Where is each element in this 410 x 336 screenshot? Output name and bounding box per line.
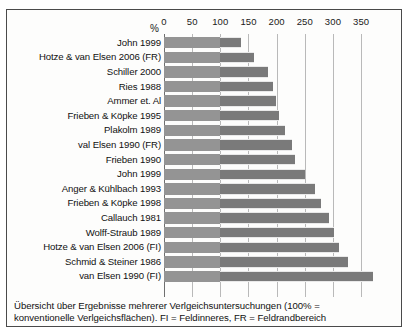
bar-baseline-segment [164,139,220,150]
x-tick-label: 50 [187,16,198,27]
category-label: Plakolm 1989 [104,124,161,135]
x-tick-label: 0 [161,16,166,27]
bar-row [164,256,378,267]
bar-row [164,169,378,180]
bar-baseline-segment [164,66,220,77]
x-tick-label: 100 [212,16,228,27]
bar-baseline-segment [164,242,220,253]
category-label: Anger & Kühlbach 1993 [62,183,161,194]
caption-line-1: Übersicht über Ergebnisse mehrerer Verlg… [14,300,320,311]
bar-row [164,139,378,150]
bar-baseline-segment [164,95,220,106]
category-label: Hotze & van Elsen 2006 (FR) [39,51,161,62]
bar-row [164,37,378,48]
chart-figure: % 050100150200250300350 John 1999Hotze &… [6,9,402,327]
bar-row [164,66,378,77]
bar-baseline-segment [164,227,220,238]
category-label-column: John 1999Hotze & van Elsen 2006 (FR)Schi… [13,34,161,297]
x-tick-label: 150 [240,16,256,27]
bar-series [164,34,378,297]
category-label: val Elsen 1990 (FR) [78,139,161,150]
category-label: Schiller 2000 [107,66,161,77]
x-tick-label: 350 [353,16,369,27]
bar-row [164,271,378,282]
bar-baseline-segment [164,110,220,121]
x-tick-label: 250 [297,16,313,27]
x-tick-label: 300 [325,16,341,27]
category-label: Ammer et. Al [107,95,161,106]
caption-line-2: konventionelle Verlgeichsflächen). FI = … [14,312,394,324]
bar-row [164,125,378,136]
category-label: Wolff-Straub 1989 [86,227,161,238]
bar-baseline-segment [164,81,220,92]
category-label: Frieben & Köpke 1995 [68,110,161,121]
bar-baseline-segment [164,154,220,165]
bar-row [164,95,378,106]
bar-baseline-segment [164,271,220,282]
bar-row [164,81,378,92]
x-axis-tick-row: 050100150200250300350 [7,10,401,34]
bar-row [164,183,378,194]
bar-baseline-segment [164,256,220,267]
bar-baseline-segment [164,125,220,136]
bar-baseline-segment [164,198,220,209]
category-label: Frieben & Köpke 1998 [68,197,161,208]
bar-baseline-segment [164,52,220,63]
bar-baseline-segment [164,212,220,223]
category-label: Callauch 1981 [101,212,161,223]
category-label: Hotze & van Elsen 2006 (FI) [43,241,161,252]
figure-caption: Übersicht über Ergebnisse mehrerer Verlg… [14,300,394,323]
bar-row [164,110,378,121]
category-label: Schmid & Steiner 1986 [65,256,161,267]
x-tick-label: 200 [269,16,285,27]
plot-area [164,34,378,297]
bar-row [164,242,378,253]
category-label: John 1999 [117,168,161,179]
bar-baseline-segment [164,183,220,194]
bar-baseline-segment [164,37,220,48]
bar-row [164,154,378,165]
category-label: John 1999 [117,37,161,48]
category-label: Frieben 1990 [106,154,161,165]
bar-row [164,198,378,209]
bar-baseline-segment [164,169,220,180]
bar-row [164,227,378,238]
category-label: Ries 1988 [119,81,161,92]
bar-row [164,212,378,223]
bar-row [164,52,378,63]
category-label: van Elsen 1990 (FI) [79,270,161,281]
